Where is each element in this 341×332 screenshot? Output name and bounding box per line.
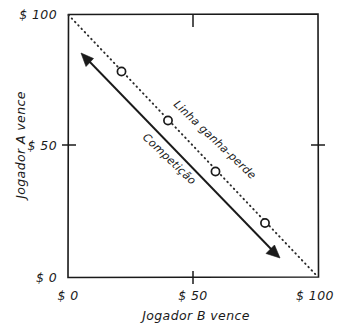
xtick-label-0: $ 0 bbox=[57, 288, 78, 303]
data-point-marker bbox=[211, 167, 219, 175]
y-axis-title: Jogador A vence bbox=[13, 91, 28, 202]
annotation-competition: Competição bbox=[140, 131, 199, 188]
ytick-label-100: $ 100 bbox=[19, 7, 57, 22]
data-point-marker bbox=[261, 219, 269, 227]
chart-figure: Linha ganha-perde Competição $ 100 $ 50 … bbox=[0, 0, 341, 332]
ytick-label-0: $ 0 bbox=[36, 270, 57, 285]
competition-arrow-shaft bbox=[88, 60, 273, 251]
winlose-line bbox=[69, 15, 319, 277]
data-point-marker bbox=[117, 67, 125, 75]
chart-canvas: Linha ganha-perde Competição $ 100 $ 50 … bbox=[0, 0, 341, 332]
data-point-marker bbox=[164, 116, 172, 124]
plot-frame bbox=[68, 14, 319, 278]
xtick-label-50: $ 50 bbox=[178, 288, 207, 303]
ytick-label-50: $ 50 bbox=[28, 138, 57, 153]
x-axis-title: Jogador B vence bbox=[139, 308, 250, 323]
xtick-label-100: $ 100 bbox=[296, 288, 334, 303]
